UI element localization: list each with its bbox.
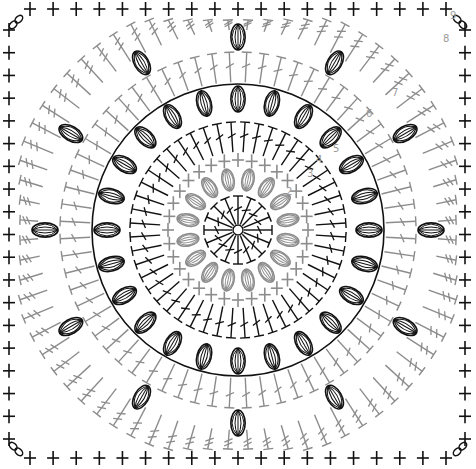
puff-stitch-icon [110,283,140,308]
stitch-symbol [382,182,412,194]
chain-icon [8,14,24,30]
single-crochet-icon [218,292,230,306]
single-crochet-icon [24,451,36,465]
stitch-symbol [60,216,90,226]
stitch-symbol [240,308,250,338]
stitch-symbol [345,32,366,62]
stitch-symbol [316,218,346,228]
stitch-symbol [316,232,346,242]
single-crochet-icon [459,364,471,378]
single-crochet-icon [232,2,244,16]
single-crochet-icon [459,250,471,264]
stitch-symbol [126,22,145,53]
single-crochet-icon [459,228,471,242]
stitch-symbol [134,191,164,205]
stitch-symbol [337,340,361,366]
stitch-symbol [357,120,384,142]
stitch-symbol [92,318,119,340]
stitch-symbol [348,329,374,353]
single-crochet-icon [394,451,406,465]
stitch-symbol [253,307,264,337]
single-crochet-icon [3,341,15,355]
stitch-symbol [78,377,103,404]
stitch-symbol [360,389,383,417]
puff-stitch-icon [255,175,277,200]
stitch-symbol [281,19,293,35]
stitch-symbol [130,218,160,228]
stitch-symbol [252,123,264,153]
puff-stitch-icon [350,254,379,275]
single-crochet-icon [297,196,309,210]
stitch-symbol [190,374,202,404]
single-crochet-icon [163,451,175,465]
stitch-symbol [407,101,437,122]
row-number-label: 5 [333,143,339,154]
stitch-symbol [40,101,70,122]
stitch-symbol [438,215,456,225]
single-crochet-icon [186,2,198,16]
stitch-symbol [83,306,111,326]
stitch-symbol [386,216,416,226]
stitch-symbol [301,364,318,393]
single-crochet-icon [183,272,195,286]
single-crochet-icon [394,2,406,16]
single-crochet-icon [205,158,217,172]
single-crochet-icon [3,68,15,82]
stitch-symbol [207,53,218,83]
stitch-symbol [360,43,383,71]
single-crochet-icon [246,292,258,306]
stitch-symbol [384,250,414,261]
puff-stitch-icon [390,121,420,146]
stitch-symbol [312,255,342,269]
stitch-symbol [61,199,91,210]
single-crochet-icon [281,272,293,286]
stitch-symbol [163,421,177,451]
single-crochet-icon [162,223,174,237]
stitch-symbol [224,378,234,408]
stitch-symbol [128,84,150,111]
puff-stitch-icon [97,254,126,275]
single-crochet-icon [3,387,15,401]
stitch-symbol [384,199,414,210]
single-crochet-icon [302,223,314,237]
single-crochet-icon [3,159,15,173]
puff-stitch-icon [322,48,347,78]
single-crochet-icon [183,174,195,188]
single-crochet-icon [163,209,175,223]
puff-stitch-icon [240,268,256,292]
puff-stitch-icon [231,86,245,112]
single-crochet-icon [459,182,471,196]
stitch-symbol [203,19,214,31]
stitch-symbol [157,67,174,96]
stitch-symbol [263,304,277,334]
row-number-label: 9 [450,10,456,21]
stitch-symbol [210,234,233,257]
puff-stitch-icon [176,232,200,248]
single-crochet-icon [70,2,82,16]
stitch-symbol [288,369,303,399]
stitch-symbol [315,18,332,45]
puff-stitch-icon [356,223,382,237]
stitch-symbol [429,290,458,304]
single-crochet-icon [3,205,15,219]
single-crochet-icon [371,451,383,465]
stitch-symbol [315,204,345,215]
stitch-symbol [315,415,332,446]
puff-stitch-icon [276,212,300,228]
single-crochet-icon [93,2,105,16]
stitch-symbol [330,22,349,53]
stitch-symbol [242,234,265,257]
stitch-symbol [199,304,213,334]
stitch-symbol [131,204,161,216]
single-crochet-icon [459,91,471,105]
stitch-symbol [242,202,265,225]
single-crochet-icon [3,296,15,310]
puff-stitch-icon [255,260,277,285]
single-crochet-icon [93,451,105,465]
stitch-symbol [397,352,425,375]
stitch-symbol [78,56,103,83]
stitch-symbol [433,175,457,187]
puff-stitch-icon [220,268,236,292]
stitch-symbol [373,377,398,404]
stitch-symbol [382,266,412,278]
